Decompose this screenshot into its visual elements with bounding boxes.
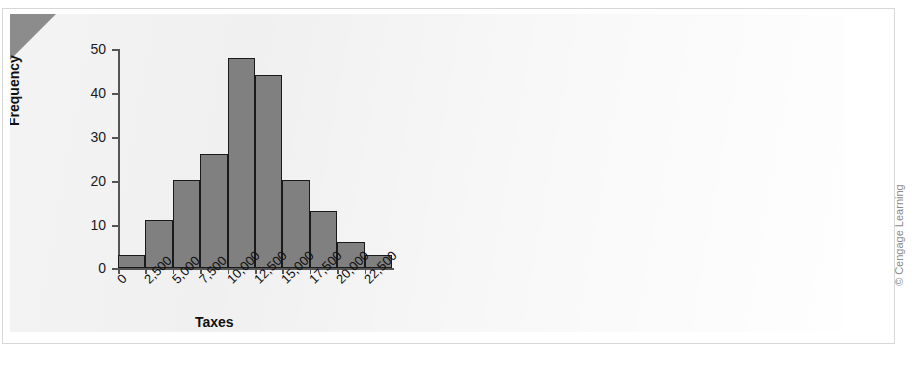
bars-group [118,49,392,268]
figure-root: Frequency 50 40 30 20 10 0 [0,0,918,382]
y-axis-title: Frequency [10,55,22,126]
x-axis-title: Taxes [195,314,234,330]
histogram-chart: Frequency 50 40 30 20 10 0 [10,14,845,332]
y-tick-label-10: 10 [72,217,106,233]
bar-5000 [173,180,200,268]
figure-plate: Frequency 50 40 30 20 10 0 [10,14,845,332]
y-tick-label-0: 0 [72,260,106,276]
x-axis-tick-labels: 0 2,500 5,000 7,500 10,000 12,500 15,000… [118,276,418,332]
y-tick-label-40: 40 [72,85,106,101]
y-tick-label-20: 20 [72,173,106,189]
bar-10000 [228,58,255,268]
y-tick-label-30: 30 [72,129,106,145]
bar-12500 [255,75,282,268]
y-tick-label-50: 50 [72,41,106,57]
y-axis-tick-labels: 50 40 30 20 10 0 [72,49,106,269]
bar-7500 [200,154,227,268]
bar-0 [118,255,145,268]
copyright-attribution: © Cengage Learning [893,184,905,286]
